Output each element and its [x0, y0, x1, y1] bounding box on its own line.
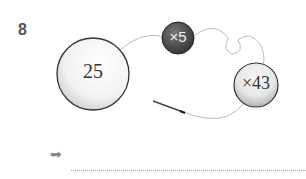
- answer-line[interactable]: [71, 170, 306, 171]
- medium-bead-label: ×43: [234, 73, 278, 94]
- right-arrow-icon: ➡: [50, 146, 62, 162]
- dark-bead-label: ×5: [162, 28, 194, 45]
- big-bead-label: 25: [57, 60, 129, 83]
- needle-icon: [153, 101, 185, 113]
